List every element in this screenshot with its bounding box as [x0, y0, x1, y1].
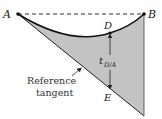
reference-label-line2: tangent [36, 87, 73, 98]
reference-label-line1: Reference [27, 75, 77, 86]
label-t-subscript: D/A [103, 61, 116, 69]
label-d: D [103, 20, 112, 31]
label-b: B [147, 8, 156, 21]
label-a: A [2, 8, 11, 21]
label-e: E [103, 92, 112, 103]
point-d [108, 31, 111, 34]
point-a [16, 12, 20, 16]
tangential-deviation-diagram: A B D E t D/A Reference tangent [0, 0, 162, 119]
point-b [142, 12, 146, 16]
